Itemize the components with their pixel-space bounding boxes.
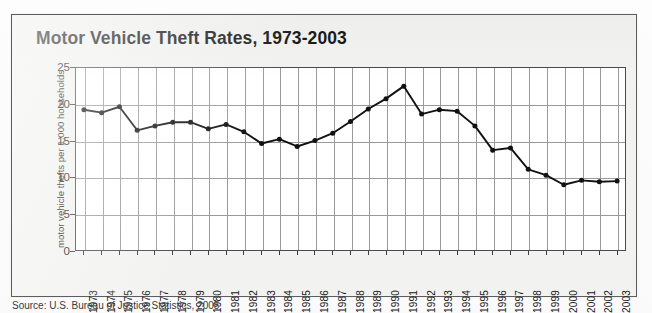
data-point-1984 xyxy=(277,137,282,142)
x-tick-mark xyxy=(368,251,369,255)
x-tick-mark xyxy=(119,251,120,255)
x-tick-mark xyxy=(528,251,529,255)
x-tick-mark xyxy=(279,251,280,255)
data-point-1995 xyxy=(472,123,477,128)
data-point-1988 xyxy=(348,119,353,124)
x-tick-label: 1991 xyxy=(408,290,419,313)
x-tick-mark xyxy=(599,251,600,255)
x-tick-label: 2001 xyxy=(586,290,597,313)
x-tick-label: 2000 xyxy=(568,290,579,313)
x-tick-label: 1993 xyxy=(443,290,454,313)
y-axis-ticks: 0510152025 xyxy=(40,67,70,251)
data-point-1985 xyxy=(295,144,300,149)
x-tick-label: 1992 xyxy=(426,290,437,313)
x-tick-mark xyxy=(137,251,138,255)
series-line xyxy=(84,86,617,185)
x-tick-label: 1982 xyxy=(248,290,259,313)
x-tick-mark xyxy=(474,251,475,255)
x-tick-label: 1989 xyxy=(372,290,383,313)
x-tick-mark xyxy=(208,251,209,255)
x-tick-label: 1988 xyxy=(355,290,366,313)
x-tick-label: 1995 xyxy=(479,290,490,313)
data-point-1979 xyxy=(188,120,193,125)
data-point-1994 xyxy=(455,109,460,114)
data-point-1992 xyxy=(419,112,424,117)
x-tick-mark xyxy=(314,251,315,255)
x-tick-mark xyxy=(172,251,173,255)
x-tick-mark xyxy=(101,251,102,255)
x-tick-mark xyxy=(581,251,582,255)
data-point-1982 xyxy=(241,129,246,134)
data-point-1993 xyxy=(437,107,442,112)
x-tick-mark xyxy=(563,251,564,255)
x-tick-label: 2002 xyxy=(603,290,614,313)
x-tick-label: 1998 xyxy=(532,290,543,313)
x-tick-mark xyxy=(386,251,387,255)
data-point-1996 xyxy=(490,148,495,153)
x-tick-mark xyxy=(421,251,422,255)
data-point-1997 xyxy=(508,145,513,150)
data-point-1990 xyxy=(384,96,389,101)
data-point-1999 xyxy=(544,173,549,178)
x-tick-label: 2003 xyxy=(621,290,632,313)
x-tick-label: 1990 xyxy=(390,290,401,313)
x-tick-mark xyxy=(154,251,155,255)
x-tick-label: 1985 xyxy=(301,290,312,313)
data-point-1974 xyxy=(99,110,104,115)
x-tick-mark xyxy=(261,251,262,255)
data-point-1987 xyxy=(330,131,335,136)
x-tick-mark xyxy=(332,251,333,255)
x-tick-label: 1987 xyxy=(337,290,348,313)
figure-card: Motor Vehicle Theft Rates, 1973-2003 mot… xyxy=(11,14,637,297)
x-tick-mark xyxy=(190,251,191,255)
x-tick-mark xyxy=(297,251,298,255)
data-point-1998 xyxy=(526,167,531,172)
data-point-1986 xyxy=(312,138,317,143)
data-point-1976 xyxy=(135,128,140,133)
x-tick-label: 1986 xyxy=(319,290,330,313)
data-point-1975 xyxy=(117,104,122,109)
x-tick-mark xyxy=(510,251,511,255)
x-tick-mark xyxy=(350,251,351,255)
data-point-1980 xyxy=(206,126,211,131)
x-tick-label: 1996 xyxy=(497,290,508,313)
data-point-1983 xyxy=(259,141,264,146)
x-tick-mark xyxy=(546,251,547,255)
series-line-motor-vehicle-theft-rate xyxy=(75,67,626,251)
x-tick-mark xyxy=(457,251,458,255)
plot-wrapper: motor vehicle thefts per 1,000 household… xyxy=(12,15,636,296)
x-tick-mark xyxy=(243,251,244,255)
data-point-1981 xyxy=(224,122,229,127)
data-point-1973 xyxy=(81,107,86,112)
x-tick-mark xyxy=(226,251,227,255)
data-point-2001 xyxy=(579,178,584,183)
x-tick-mark xyxy=(439,251,440,255)
x-tick-label: 1999 xyxy=(550,290,561,313)
y-tick-label: 25 xyxy=(57,61,70,73)
x-axis-ticks: 1973197419751976197719781979198019811982… xyxy=(75,252,626,296)
y-tick-label: 20 xyxy=(57,98,70,110)
x-tick-label: 1983 xyxy=(266,290,277,313)
y-tick-label: 15 xyxy=(57,135,70,147)
data-point-1977 xyxy=(152,123,157,128)
data-point-1991 xyxy=(401,84,406,89)
x-tick-mark xyxy=(617,251,618,255)
data-point-2000 xyxy=(561,182,566,187)
data-point-2003 xyxy=(615,179,620,184)
data-point-1978 xyxy=(170,120,175,125)
x-tick-label: 1984 xyxy=(283,290,294,313)
x-tick-mark xyxy=(83,251,84,255)
x-tick-mark xyxy=(403,251,404,255)
x-tick-mark xyxy=(492,251,493,255)
data-point-1989 xyxy=(366,106,371,111)
x-tick-label: 1994 xyxy=(461,290,472,313)
data-point-2002 xyxy=(597,179,602,184)
y-tick-label: 10 xyxy=(57,171,70,183)
x-tick-label: 1997 xyxy=(514,290,525,313)
source-note: Source: U.S. Bureau of Justice Statistic… xyxy=(12,300,219,313)
x-tick-label: 1981 xyxy=(230,290,241,313)
